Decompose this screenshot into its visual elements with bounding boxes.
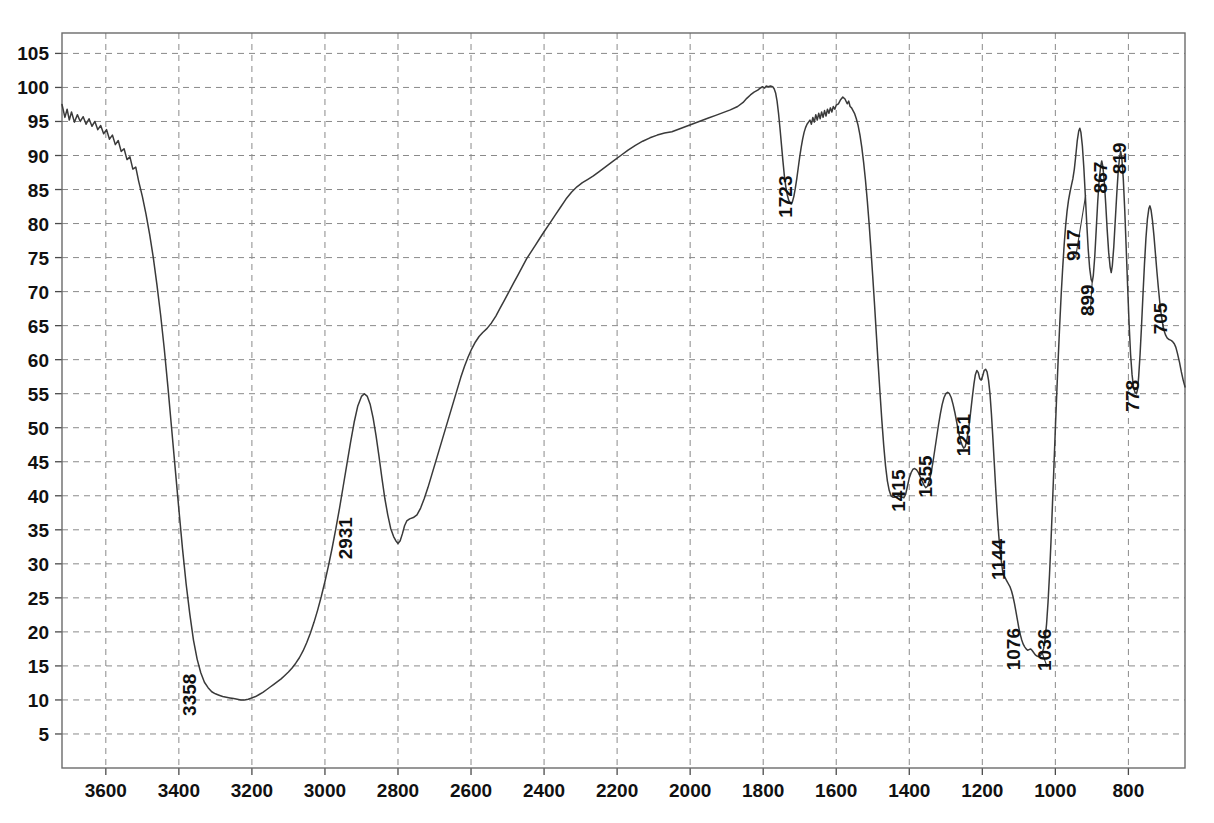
peak-label-1723: 1723 (775, 176, 796, 218)
x-axis-tick-label: 1400 (888, 780, 930, 801)
y-axis-tick-label: 40 (28, 486, 49, 507)
peak-label-778: 778 (1122, 380, 1143, 412)
x-axis-tick-label: 3200 (231, 780, 273, 801)
spectrum-chart-canvas: 3600340032003000280026002400220020001800… (0, 0, 1214, 823)
peak-label-705: 705 (1150, 302, 1171, 334)
x-axis-tick-label: 2400 (523, 780, 565, 801)
peak-label-2931: 2931 (335, 517, 356, 560)
transmittance-curve (62, 86, 1185, 700)
y-axis-tick-label: 10 (28, 690, 49, 711)
peak-label-899: 899 (1077, 284, 1098, 316)
x-axis-tick-label: 1200 (961, 780, 1003, 801)
peak-label-917: 917 (1063, 229, 1084, 261)
y-axis-tick-label: 45 (28, 452, 50, 473)
peak-label-1076: 1076 (1003, 628, 1024, 670)
x-axis-tick-label: 1800 (742, 780, 784, 801)
x-axis-tick-label: 2800 (377, 780, 419, 801)
peak-label-3358: 3358 (179, 674, 200, 716)
peak-label-1415: 1415 (888, 469, 909, 512)
x-axis-tick-label: 800 (1113, 780, 1145, 801)
y-axis-tick-label: 60 (28, 350, 49, 371)
x-axis-tick-label: 3600 (85, 780, 127, 801)
y-axis-tick-label: 100 (17, 77, 49, 98)
y-axis-tick-label: 20 (28, 622, 49, 643)
y-axis-tick-label: 95 (28, 111, 50, 132)
y-axis-tick-label: 35 (28, 520, 50, 541)
peak-label-819: 819 (1109, 142, 1130, 174)
peak-label-1355: 1355 (915, 455, 936, 498)
peak-label-1036: 1036 (1034, 629, 1055, 671)
x-axis-tick-label: 3400 (158, 780, 200, 801)
y-axis-tick-labels-group: 5101520253035404550556065707580859095100… (17, 43, 49, 745)
ir-spectrum-figure: 3600340032003000280026002400220020001800… (0, 0, 1214, 823)
peak-label-1144: 1144 (988, 538, 1009, 580)
x-axis-tick-label: 2000 (669, 780, 711, 801)
y-axis-tick-label: 50 (28, 418, 49, 439)
x-axis-tick-labels-group: 3600340032003000280026002400220020001800… (85, 780, 1145, 801)
spectrum-trace-group (62, 86, 1185, 700)
x-axis-tick-label: 2600 (450, 780, 492, 801)
y-axis-tick-label: 85 (28, 180, 50, 201)
y-axis-tick-label: 55 (28, 384, 50, 405)
peak-annotations-group: 3358293117231415135512511144107610369178… (179, 142, 1171, 715)
y-axis-tick-label: 80 (28, 214, 49, 235)
y-axis-tick-label: 30 (28, 554, 49, 575)
x-axis-tick-label: 1000 (1034, 780, 1076, 801)
y-axis-tick-label: 65 (28, 316, 50, 337)
x-axis-tick-label: 3000 (304, 780, 346, 801)
y-axis-tick-label: 15 (28, 656, 50, 677)
y-axis-tick-label: 75 (28, 248, 50, 269)
x-axis-tick-label: 2200 (596, 780, 638, 801)
y-axis-tick-label: 25 (28, 588, 50, 609)
peak-label-1251: 1251 (953, 413, 974, 456)
y-axis-tick-label: 5 (38, 724, 49, 745)
y-axis-tick-label: 70 (28, 282, 49, 303)
x-axis-tick-label: 1600 (815, 780, 857, 801)
y-axis-tick-label: 90 (28, 146, 49, 167)
y-axis-tick-label: 105 (17, 43, 49, 64)
